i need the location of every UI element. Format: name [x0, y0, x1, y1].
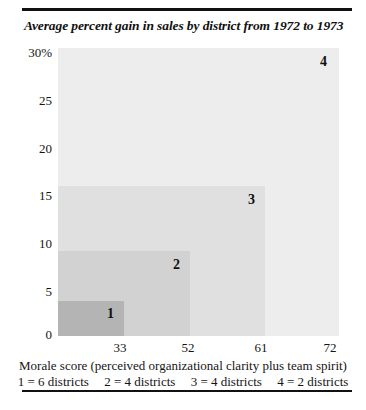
band-label-3: 3 — [248, 192, 255, 208]
band-1 — [58, 301, 124, 336]
legend: 1 = 6 districts 2 = 4 districts 3 = 4 di… — [0, 374, 366, 389]
y-tick-15: 15 — [6, 189, 52, 202]
x-axis-label: Morale score (perceived organizational c… — [0, 358, 366, 373]
x-axis: 33 52 61 72 — [0, 340, 366, 358]
bottom-rule — [22, 390, 352, 392]
legend-item-4: 4 = 2 districts — [277, 374, 348, 389]
band-label-1: 1 — [107, 306, 114, 322]
x-tick-72: 72 — [308, 340, 352, 355]
x-tick-33: 33 — [98, 340, 142, 355]
legend-item-3: 3 = 4 districts — [191, 374, 262, 389]
y-tick-10: 10 — [6, 237, 52, 250]
y-tick-25: 25 — [6, 94, 52, 107]
legend-item-2: 2 = 4 districts — [104, 374, 175, 389]
x-tick-52: 52 — [166, 340, 210, 355]
top-rule — [22, 8, 352, 11]
legend-item-1: 1 = 6 districts — [18, 374, 89, 389]
band-label-4: 4 — [320, 54, 327, 70]
y-tick-20: 20 — [6, 142, 52, 155]
chart-figure: Average percent gain in sales by distric… — [0, 0, 366, 410]
x-tick-61: 61 — [239, 340, 283, 355]
plot-area: 1 2 3 4 — [58, 46, 339, 336]
y-axis: 30% 25 20 15 10 5 0 — [0, 46, 52, 336]
chart-title: Average percent gain in sales by distric… — [24, 18, 360, 34]
y-tick-30: 30% — [6, 46, 52, 59]
y-tick-5: 5 — [6, 285, 52, 298]
band-label-2: 2 — [173, 257, 180, 273]
